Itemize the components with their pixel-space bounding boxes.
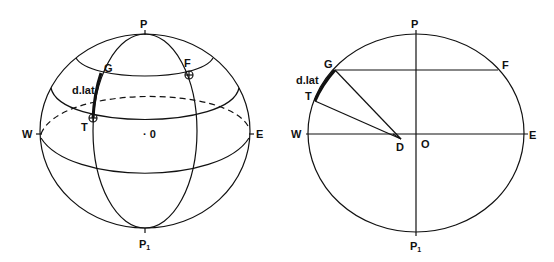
equator-front [41, 138, 249, 173]
label-p1: P1 [139, 238, 150, 251]
label-o: O [421, 138, 430, 150]
label-f: F [502, 59, 509, 71]
label-e: E [529, 129, 536, 141]
point-f-marker [185, 71, 193, 79]
point-t-marker [89, 114, 97, 122]
radius-gd [335, 70, 401, 139]
label-g: G [324, 58, 333, 70]
label-t: T [81, 121, 88, 133]
label-p1: P1 [410, 240, 421, 253]
radius-td [315, 101, 401, 139]
label-p: P [140, 18, 147, 30]
label-d: D [396, 141, 404, 153]
label-t: T [305, 90, 312, 102]
diagram-canvas: P P1 W E · 0 G F T d.lat P P1 W E O D G … [0, 0, 554, 262]
label-e: E [256, 128, 263, 140]
label-p: P [411, 18, 418, 30]
label-dlat: d.lat [296, 74, 319, 86]
label-f: F [184, 57, 191, 69]
right-globe: P P1 W E O D G F T d.lat [291, 18, 536, 253]
label-w: W [291, 128, 302, 140]
label-g: G [104, 62, 113, 74]
label-dlat: d.lat [72, 84, 95, 96]
label-w: W [22, 128, 33, 140]
left-globe: P P1 W E · 0 G F T d.lat [22, 18, 263, 251]
label-center: · 0 [143, 128, 156, 140]
